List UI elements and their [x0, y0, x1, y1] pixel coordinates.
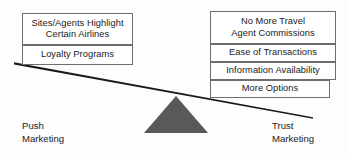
trust-marketing-label: Trust Marketing: [272, 120, 314, 145]
factor-box-sites-agents-highlight[interactable]: Sites/Agents Highlight Certain Airlines: [22, 13, 133, 45]
factor-box-more-options[interactable]: More Options: [210, 80, 330, 98]
fulcrum-triangle: [144, 96, 208, 133]
factor-box-information-availability[interactable]: Information Availability: [210, 62, 336, 80]
factor-box-loyalty-programs[interactable]: Loyalty Programs: [22, 45, 133, 65]
factor-box-ease-of-transactions[interactable]: Ease of Transactions: [210, 44, 336, 62]
seesaw-diagram: Sites/Agents Highlight Certain Airlines …: [0, 0, 349, 153]
factor-box-no-more-travel-agent-commissions[interactable]: No More Travel Agent Commissions: [210, 11, 336, 44]
push-marketing-label: Push Marketing: [22, 120, 64, 145]
